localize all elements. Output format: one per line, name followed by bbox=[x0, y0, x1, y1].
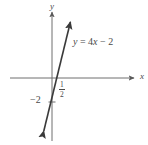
y-intercept-label: −2 bbox=[30, 95, 41, 105]
y-axis-label: y bbox=[50, 2, 54, 11]
coordinate-plane-svg bbox=[0, 0, 148, 145]
fraction-numerator: 1 bbox=[59, 81, 65, 89]
x-intercept-label: 12 bbox=[59, 81, 65, 99]
fraction-one-half: 12 bbox=[59, 81, 65, 99]
equation-constant: − 2 bbox=[98, 36, 114, 47]
x-axis-label: x bbox=[140, 72, 144, 81]
equation-operator: = 4 bbox=[77, 36, 93, 47]
fraction-denominator: 2 bbox=[59, 91, 65, 99]
graph-figure: y x y = 4x − 2 −2 12 bbox=[0, 0, 148, 145]
equation-label: y = 4x − 2 bbox=[73, 37, 113, 47]
plotted-line bbox=[44, 22, 71, 131]
